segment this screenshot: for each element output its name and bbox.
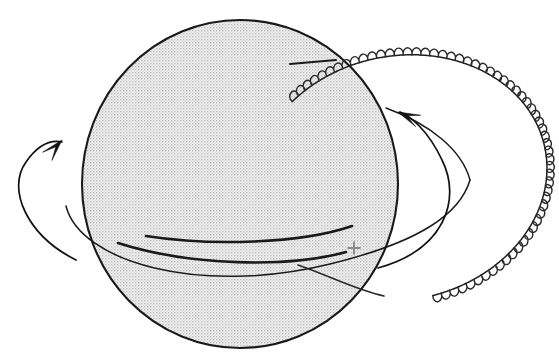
left-rotation-arrow: [19, 141, 76, 260]
sphere: [82, 20, 398, 348]
figure-canvas: [0, 0, 559, 363]
orbit-back-segment: [386, 108, 470, 180]
sphere-orbit-diagram: [0, 0, 559, 363]
